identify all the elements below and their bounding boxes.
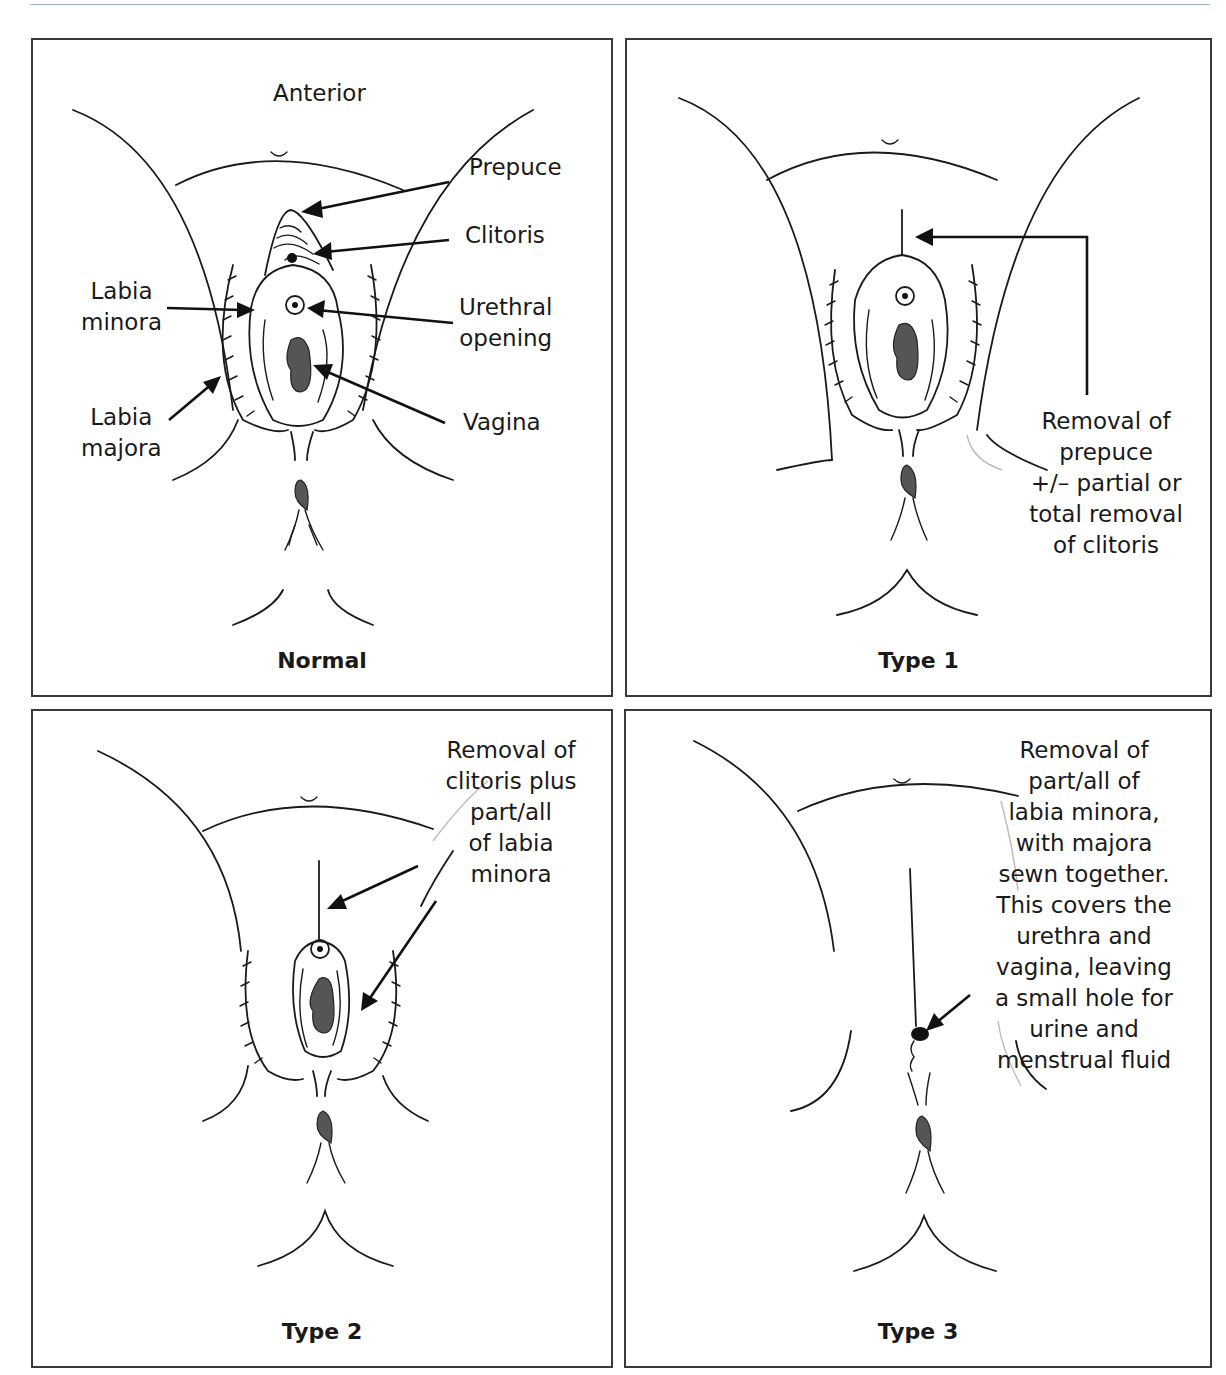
type1-annotation: Removal of prepuce +/– partial or total … [1011,406,1201,561]
type3-annotation: Removal of part/all of labia minora, wit… [984,735,1184,1076]
type2-annotation: Removal of clitoris plus part/all of lab… [421,735,601,890]
label-vagina: Vagina [463,407,541,438]
label-urethral-opening: Urethral opening [459,292,552,354]
label-clitoris: Clitoris [465,220,545,251]
label-labia-majora: Labia majora [81,402,162,464]
header-rule [30,4,1210,5]
label-labia-minora: Labia minora [81,276,162,338]
panel-type1: Removal of prepuce +/– partial or total … [625,38,1212,697]
caption-type2: Type 2 [33,1319,611,1344]
label-prepuce: Prepuce [469,152,562,183]
normal-anatomy-illustration [33,40,611,695]
panel-type2: Removal of clitoris plus part/all of lab… [31,709,613,1368]
caption-normal: Normal [33,648,611,673]
type1-illustration [627,40,1210,695]
label-anterior: Anterior [273,78,366,109]
caption-type1: Type 1 [627,648,1210,673]
panel-type3: Removal of part/all of labia minora, wit… [624,709,1212,1368]
caption-type3: Type 3 [626,1319,1210,1344]
panel-normal: Anterior Prepuce Clitoris Urethral openi… [31,38,613,697]
